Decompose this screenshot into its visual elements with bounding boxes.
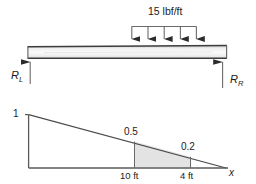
dimension-label-4ft: 4 ft [180, 171, 193, 181]
x-axis-label: x [229, 168, 234, 178]
beam-influence-line-figure: 15 lbf/ft RL RR 1 0.5 0.2 10 ft 4 ft x [0, 0, 256, 184]
beam-member [28, 46, 228, 59]
right-reaction-subscript: R [238, 79, 243, 88]
right-reaction-label: RR [230, 74, 243, 88]
peak-value-label: 1 [13, 109, 19, 119]
left-reaction-symbol: R [11, 69, 19, 81]
value-label-0-2: 0.2 [181, 142, 195, 152]
figure-canvas [0, 0, 256, 184]
load-arrows [132, 27, 197, 40]
influence-line [29, 115, 226, 168]
influence-line-diagram [25, 115, 228, 168]
left-reaction-label: RL [11, 70, 23, 84]
dimension-label-10ft: 10 ft [120, 171, 139, 181]
value-label-0-5: 0.5 [124, 127, 138, 137]
right-reaction-symbol: R [230, 73, 238, 85]
distributed-load-label: 15 lbf/ft [148, 6, 182, 17]
reaction-arrows [30, 62, 222, 88]
distributed-load-group [132, 27, 197, 40]
beam-highlight [44, 52, 212, 53]
left-reaction-subscript: L [19, 75, 23, 84]
